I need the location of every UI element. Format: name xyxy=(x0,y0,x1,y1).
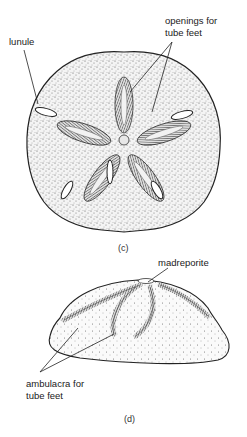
label-lunule: lunule xyxy=(9,36,34,47)
caption-c: (c) xyxy=(118,243,129,253)
side-view-body xyxy=(49,279,229,364)
label-openings-line1: openings for xyxy=(165,15,217,26)
label-ambulacra-line1: ambulacra for xyxy=(26,378,84,389)
caption-d: (d) xyxy=(124,414,135,424)
label-openings-line2: tube feet xyxy=(165,27,202,38)
label-ambulacra-line2: tube feet xyxy=(26,390,63,401)
label-madreporite: madreporite xyxy=(158,257,209,268)
sand-dollar-illustration xyxy=(0,0,247,437)
top-view-disc xyxy=(27,52,220,232)
